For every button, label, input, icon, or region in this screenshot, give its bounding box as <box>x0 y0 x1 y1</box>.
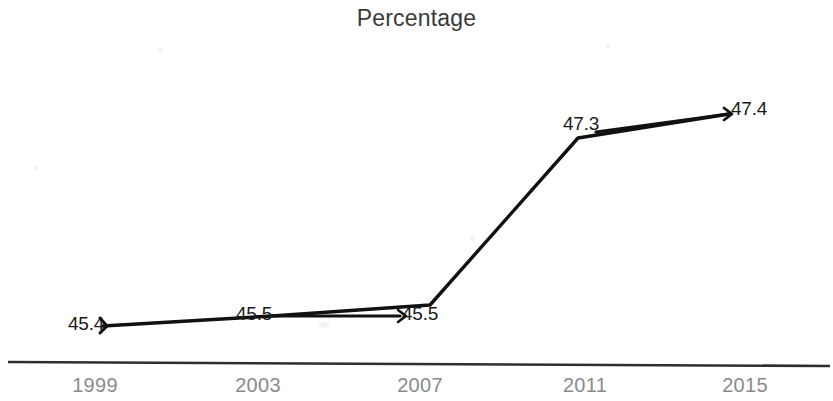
x-tick-label-2007: 2007 <box>370 374 470 397</box>
data-label-5: 47.4 <box>731 98 767 120</box>
line-chart-plot <box>0 0 833 401</box>
data-label-2: 45.5 <box>236 303 272 325</box>
chart-page: Percentage 45.4 45.5 45.5 47.3 47.4 1999… <box>0 0 833 401</box>
x-tick-label-2003: 2003 <box>208 374 308 397</box>
x-tick-label-1999: 1999 <box>45 374 145 397</box>
data-label-4: 47.3 <box>563 113 599 135</box>
x-axis-line <box>8 362 830 366</box>
data-series-line <box>103 114 729 326</box>
x-tick-label-2011: 2011 <box>535 374 635 397</box>
data-label-1: 45.4 <box>68 313 104 335</box>
x-tick-label-2015: 2015 <box>695 374 795 397</box>
data-label-3: 45.5 <box>402 303 438 325</box>
segment-label-connector-4 <box>596 114 729 132</box>
